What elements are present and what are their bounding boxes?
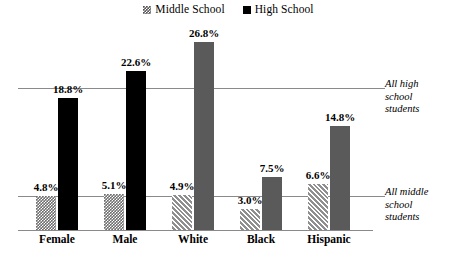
bar-value-label: 22.6% bbox=[121, 57, 151, 68]
plot-area: 4.8% 18.8% Female 5.1% 22.6% Male 4.9% 2… bbox=[18, 20, 373, 230]
legend-item-high-school: High School bbox=[243, 4, 314, 16]
chart-legend: Middle School High School bbox=[0, 2, 457, 18]
bar-group-female: 4.8% 18.8% Female bbox=[36, 20, 78, 230]
category-label-black: Black bbox=[247, 233, 275, 245]
legend-label-middle-school: Middle School bbox=[155, 4, 224, 16]
category-label-female: Female bbox=[39, 233, 75, 245]
category-label-male: Male bbox=[113, 233, 138, 245]
bar-high-school-hispanic: 14.8% bbox=[330, 126, 350, 230]
bar-group-white: 4.9% 26.8% White bbox=[172, 20, 214, 230]
bar-value-label: 14.8% bbox=[325, 112, 355, 123]
bar-middle-school-female: 4.8% bbox=[36, 196, 56, 230]
bar-value-label: 26.8% bbox=[189, 28, 219, 39]
bar-group-black: 3.0% 7.5% Black bbox=[240, 20, 282, 230]
annotation-all-high-school: All high school students bbox=[385, 78, 419, 116]
bar-middle-school-black: 3.0% bbox=[240, 209, 260, 230]
bar-high-school-white: 26.8% bbox=[194, 42, 214, 230]
bar-middle-school-hispanic: 6.6% bbox=[308, 184, 328, 230]
solid-square-icon bbox=[243, 6, 251, 14]
category-label-hispanic: Hispanic bbox=[307, 233, 350, 245]
bar-value-label: 6.6% bbox=[306, 170, 331, 181]
legend-label-high-school: High School bbox=[255, 4, 314, 16]
bar-value-label: 4.9% bbox=[170, 181, 195, 192]
legend-item-middle-school: Middle School bbox=[143, 4, 224, 16]
bar-value-label: 3.0% bbox=[238, 195, 263, 206]
bar-value-label: 18.8% bbox=[53, 84, 83, 95]
annotation-all-middle-school: All middle school students bbox=[385, 186, 428, 224]
bar-value-label: 5.1% bbox=[102, 180, 127, 191]
hatched-square-icon bbox=[143, 6, 151, 14]
annotation-leader-middle bbox=[373, 196, 385, 197]
annotation-leader-high bbox=[373, 88, 385, 89]
bar-middle-school-male: 5.1% bbox=[104, 194, 124, 230]
bar-group-hispanic: 6.6% 14.8% Hispanic bbox=[308, 20, 350, 230]
bar-high-school-black: 7.5% bbox=[262, 177, 282, 230]
bar-middle-school-white: 4.9% bbox=[172, 195, 192, 230]
bar-group-male: 5.1% 22.6% Male bbox=[104, 20, 146, 230]
x-axis-line bbox=[18, 230, 373, 231]
bar-value-label: 4.8% bbox=[34, 182, 59, 193]
bar-value-label: 7.5% bbox=[260, 163, 285, 174]
bar-high-school-female: 18.8% bbox=[58, 98, 78, 230]
category-label-white: White bbox=[178, 233, 208, 245]
bar-high-school-male: 22.6% bbox=[126, 71, 146, 230]
chart-container: Middle School High School 4.8% 18.8% Fem… bbox=[0, 0, 457, 258]
